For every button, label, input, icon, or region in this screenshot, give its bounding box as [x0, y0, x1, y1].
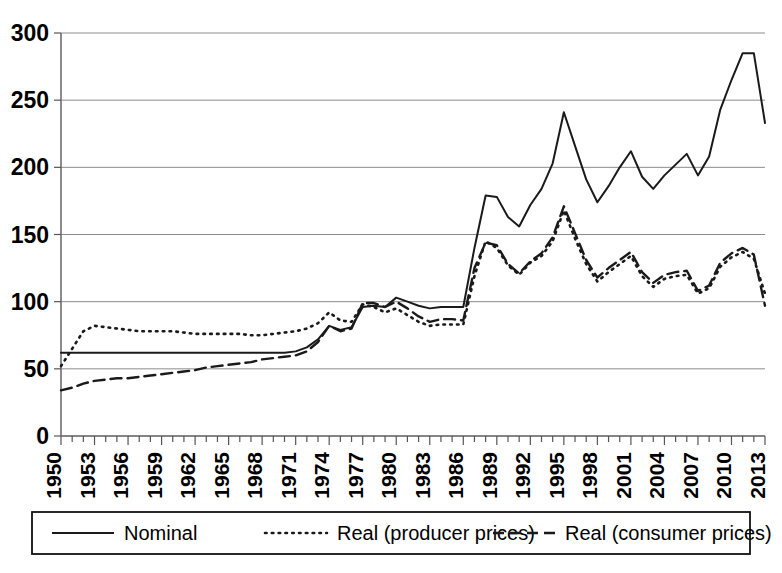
x-tick-label: 1980: [377, 452, 400, 499]
x-tick-label: 1968: [243, 452, 266, 499]
x-tick-label: 2010: [712, 452, 735, 499]
x-tick-label: 2013: [746, 452, 769, 499]
x-tick-label: 1950: [42, 452, 65, 499]
x-tick-label: 1956: [109, 452, 132, 499]
y-tick-label: 0: [36, 423, 49, 449]
x-tick-label: 1992: [511, 452, 534, 499]
y-tick-label: 300: [11, 20, 49, 46]
x-tick-label: 1953: [76, 452, 99, 499]
x-tick-label: 1977: [344, 452, 367, 499]
x-axis-tick-labels: 1950195319561959196219651968197119741977…: [42, 452, 769, 499]
x-tick-label: 2007: [679, 452, 702, 499]
data-series: [61, 53, 765, 390]
legend-label-2: Real (consumer prices): [565, 522, 772, 544]
x-tick-label: 1995: [545, 452, 568, 499]
y-tick-label: 50: [23, 356, 49, 382]
line-chart: 050100150200250300 195019531956195919621…: [0, 0, 782, 573]
x-axis-ticks: [61, 436, 765, 445]
x-tick-label: 1989: [478, 452, 501, 499]
x-tick-label: 1974: [310, 452, 333, 499]
chart-canvas: 050100150200250300 195019531956195919621…: [0, 0, 782, 573]
y-tick-label: 100: [11, 289, 49, 315]
y-tick-label: 200: [11, 154, 49, 180]
x-tick-label: 1965: [210, 452, 233, 499]
legend-label-1: Real (producer prices): [337, 522, 535, 544]
legend-label-0: Nominal: [124, 522, 197, 544]
series-path-0: [61, 53, 765, 353]
series-path-1: [61, 210, 765, 366]
y-tick-label: 250: [11, 87, 49, 113]
x-tick-label: 2004: [645, 452, 668, 499]
series-path-2: [61, 206, 765, 390]
x-tick-label: 2001: [612, 452, 635, 499]
x-tick-label: 1986: [444, 452, 467, 499]
gridlines: [61, 33, 765, 436]
x-tick-label: 1962: [176, 452, 199, 499]
x-tick-label: 1998: [578, 452, 601, 499]
chart-legend: NominalReal (producer prices)Real (consu…: [32, 512, 772, 554]
x-tick-label: 1983: [411, 452, 434, 499]
x-tick-label: 1959: [143, 452, 166, 499]
y-axis-tick-labels: 050100150200250300: [11, 20, 61, 449]
x-tick-label: 1971: [277, 452, 300, 499]
y-tick-label: 150: [11, 222, 49, 248]
